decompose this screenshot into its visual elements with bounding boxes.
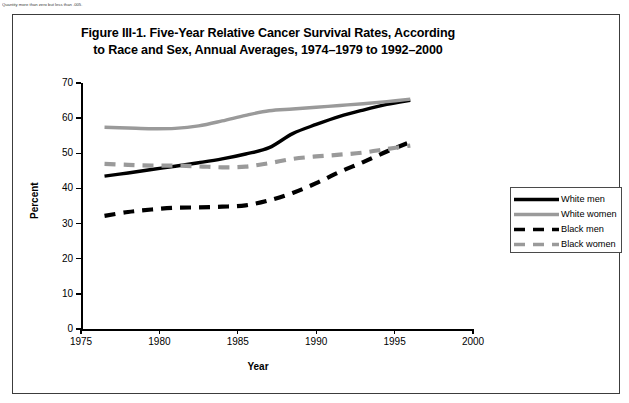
- series-line-black-women: [105, 146, 411, 168]
- figure-frame: Figure III-1. Five-Year Relative Cancer …: [12, 14, 620, 394]
- x-tick-label-1975: 1975: [70, 337, 92, 347]
- x-tick: [159, 329, 160, 334]
- y-tick-label-70: 70: [62, 78, 73, 88]
- legend-label-black-women: Black women: [561, 239, 616, 250]
- legend-swatch-black-women: [514, 239, 559, 250]
- x-tick: [316, 329, 317, 334]
- x-axis-title: Year: [33, 361, 483, 372]
- y-axis-title: Percent: [29, 182, 40, 219]
- legend-swatch-white-women: [514, 209, 559, 220]
- top-footnote-text: Quantity more than zero but less than .0…: [2, 0, 302, 9]
- y-tick-label-0: 0: [67, 324, 73, 334]
- legend-label-white-men: White men: [561, 194, 605, 205]
- figure-page: Quantity more than zero but less than .0…: [0, 0, 629, 403]
- series-line-black-men: [105, 142, 411, 216]
- y-tick-label-40: 40: [62, 183, 73, 193]
- chart-legend: White men White women Black men Black wo…: [510, 187, 622, 253]
- x-tick-label-2000: 2000: [462, 337, 484, 347]
- legend-label-white-women: White women: [561, 209, 617, 220]
- legend-swatch-black-men: [514, 224, 559, 235]
- axes: 010203040506070 197519801985199019952000: [81, 83, 473, 329]
- series-line-white-women: [105, 99, 411, 129]
- x-tick: [394, 329, 395, 334]
- legend-item-black-men: Black men: [514, 222, 618, 237]
- x-axis-line: [81, 329, 473, 331]
- x-tick-label-1980: 1980: [148, 337, 170, 347]
- series-lines: [81, 83, 473, 329]
- legend-item-black-women: Black women: [514, 237, 618, 252]
- x-tick-label-1995: 1995: [383, 337, 405, 347]
- figure-title: Figure III-1. Five-Year Relative Cancer …: [33, 25, 503, 59]
- figure-title-line-1: Figure III-1. Five-Year Relative Cancer …: [81, 26, 455, 40]
- plot-area: Percent Year 010203040506070 19751980198…: [33, 73, 503, 383]
- x-tick: [80, 329, 81, 334]
- y-tick-label-20: 20: [62, 254, 73, 264]
- y-tick-label-10: 10: [62, 289, 73, 299]
- x-tick: [472, 329, 473, 334]
- x-tick: [237, 329, 238, 334]
- y-tick-label-50: 50: [62, 148, 73, 158]
- x-tick-label-1985: 1985: [227, 337, 249, 347]
- legend-item-white-men: White men: [514, 192, 618, 207]
- legend-item-white-women: White women: [514, 207, 618, 222]
- legend-label-black-men: Black men: [561, 224, 604, 235]
- y-tick-label-30: 30: [62, 219, 73, 229]
- legend-swatch-white-men: [514, 194, 559, 205]
- figure-title-line-2: to Race and Sex, Annual Averages, 1974–1…: [33, 42, 503, 59]
- y-tick-label-60: 60: [62, 113, 73, 123]
- x-tick-label-1990: 1990: [305, 337, 327, 347]
